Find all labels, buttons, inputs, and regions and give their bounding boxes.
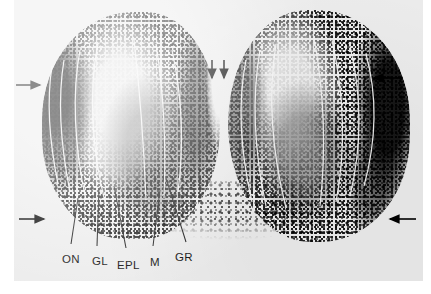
figure-panel: ON GL EPL M GR — [0, 0, 431, 294]
right-bulb-layer-delineations — [241, 38, 374, 208]
annotation-overlay — [14, 0, 423, 281]
leader-ON — [71, 198, 78, 244]
leader-EPL — [114, 186, 126, 248]
label-M: M — [150, 256, 160, 268]
label-ON: ON — [62, 253, 80, 265]
label-EPL: EPL — [117, 259, 140, 271]
leader-GR — [166, 178, 186, 242]
leader-M — [153, 190, 160, 246]
leader-GL — [97, 188, 99, 246]
photographic-plate: ON GL EPL M GR — [14, 0, 423, 281]
label-GL: GL — [92, 255, 108, 267]
label-GR: GR — [175, 251, 193, 263]
left-bulb-layer-delineations — [49, 40, 181, 206]
label-leader-lines — [71, 178, 186, 248]
